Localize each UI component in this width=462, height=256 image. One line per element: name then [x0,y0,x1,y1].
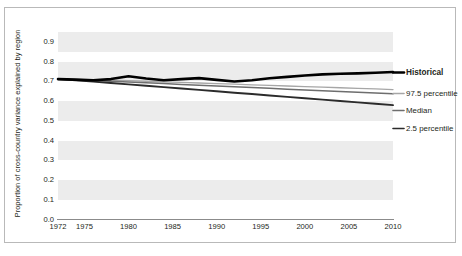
legend-label: Median [406,107,432,115]
legend-label: Historical [406,69,443,77]
chart-figure: Proportion of cross-country variance exp… [0,0,462,256]
legend-label: 2.5 percentile [406,125,453,133]
series-line [58,72,393,81]
x-tick-label: 1995 [241,223,281,231]
x-tick-label: 2010 [373,223,413,231]
x-tick-label: 2000 [285,223,325,231]
x-tick-label: 1990 [197,223,237,231]
x-tick-label: 1975 [64,223,104,231]
x-tick-label: 1980 [109,223,149,231]
series-lines [0,0,462,256]
x-tick-label: 2005 [329,223,369,231]
x-tick-label: 1985 [153,223,193,231]
legend-label: 97.5 percentile [406,90,458,98]
